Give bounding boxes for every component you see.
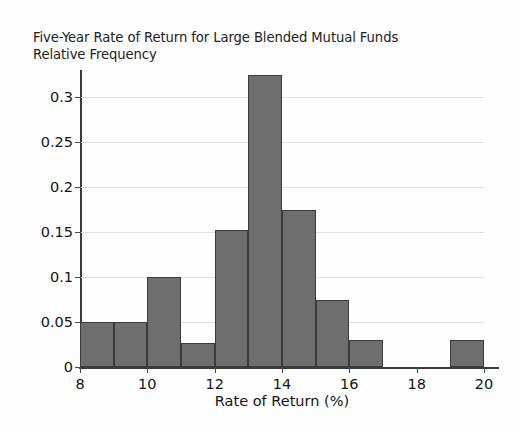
y-tick-label: 0.15 [41,224,73,240]
chart-title: Five-Year Rate of Return for Large Blend… [33,29,398,46]
y-axis-title: Relative Frequency [33,46,398,63]
y-tick-label: 0.1 [50,269,73,285]
plot-area: 00.050.10.150.20.250.3 8101214161820 Rat… [80,70,484,367]
histogram-bar [450,340,484,367]
y-tick-label: 0.25 [41,134,73,150]
gridline [80,142,484,143]
y-tick-label: 0 [64,359,73,375]
y-tick [75,142,81,143]
histogram-bar [181,343,215,367]
x-axis-label: Rate of Return (%) [80,367,484,409]
histogram-bar [80,322,114,367]
histogram-bar [316,300,350,368]
histogram-bar [282,210,316,368]
histogram-bar [114,322,148,367]
chart-title-block: Five-Year Rate of Return for Large Blend… [33,29,398,63]
histogram-bar [349,340,383,367]
y-tick [75,277,81,278]
y-tick-label: 0.05 [41,314,73,330]
gridline [80,97,484,98]
x-tick [484,367,485,373]
histogram-bar [248,75,282,368]
y-tick [75,97,81,98]
chart-canvas: Five-Year Rate of Return for Large Blend… [0,0,518,427]
histogram-bar [215,230,249,367]
y-tick [75,232,81,233]
gridline [80,187,484,188]
histogram-bar [147,277,181,367]
y-tick-label: 0.3 [50,89,73,105]
y-tick-label: 0.2 [50,179,73,195]
y-tick [75,187,81,188]
